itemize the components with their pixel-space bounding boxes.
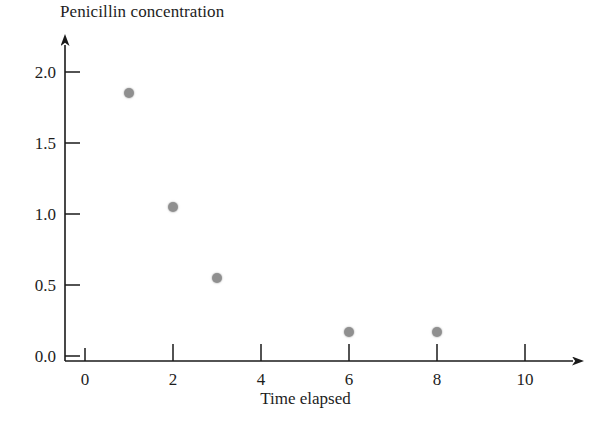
penicillin-concentration-scatter-chart: Penicillin concentration	[0, 0, 611, 423]
x-axis-label: Time elapsed	[0, 389, 611, 409]
data-point	[168, 202, 178, 212]
y-tick-label-1-5: 1.5	[10, 135, 56, 152]
y-tick-label-0-5: 0.5	[10, 277, 56, 294]
chart-axes	[0, 0, 611, 423]
x-axis-ticks	[85, 344, 525, 361]
y-axis-ticks	[65, 72, 80, 356]
data-point	[344, 327, 354, 337]
y-tick-label-0-0: 0.0	[10, 348, 56, 365]
x-tick-label-2: 2	[153, 371, 193, 388]
x-tick-label-6: 6	[329, 371, 369, 388]
data-point	[212, 273, 222, 283]
x-tick-label-8: 8	[417, 371, 457, 388]
data-point	[432, 327, 442, 337]
y-tick-label-2-0: 2.0	[10, 64, 56, 81]
y-tick-label-1-0: 1.0	[10, 206, 56, 223]
x-tick-label-10: 10	[505, 371, 545, 388]
x-tick-label-0: 0	[65, 371, 105, 388]
x-tick-label-4: 4	[241, 371, 281, 388]
